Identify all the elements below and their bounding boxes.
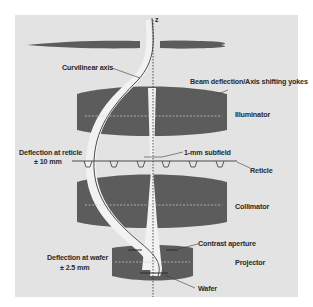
label-subfield: 1-mm subfield [184, 148, 231, 157]
label-projector: Projector [235, 258, 266, 267]
label-deflection-wafer: Deflection at wafer [47, 253, 108, 262]
label-curvilinear-axis: Curvilinear axis [62, 63, 113, 72]
label-deflection-reticle-value: ± 10 mm [34, 157, 62, 166]
label-wafer: Wafer [198, 284, 217, 293]
label-reticle: Reticle [250, 166, 273, 175]
label-deflection-wafer-value: ± 2.5 mm [60, 263, 90, 272]
label-deflection-reticle: Deflection at reticle [19, 148, 82, 157]
label-yokes: Beam deflection/Axis shifting yokes [190, 77, 308, 86]
label-contrast-aperture: Contrast aperture [198, 239, 256, 248]
label-collimator: Collimator [235, 202, 269, 211]
beam-column-diagram: z Curvilinear axis Beam deflection/Axis … [0, 0, 313, 307]
label-illuminator: Illuminator [235, 110, 270, 119]
